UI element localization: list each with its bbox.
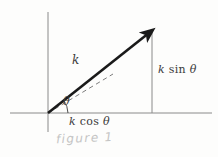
horizontal-component-label: k cos θ	[69, 115, 110, 128]
dashed-reference-line	[48, 74, 113, 113]
vertical-component-angle-symbol: θ	[190, 63, 197, 76]
vertical-component-function: sin	[169, 63, 186, 76]
angle-symbol-text: θ	[63, 95, 70, 108]
figure-caption: figure 1	[56, 130, 114, 147]
vector-magnitude-label: k	[72, 53, 80, 67]
vertical-component-variable: k	[158, 63, 165, 76]
figure-container: k k sin θ k cos θ θ figure 1	[0, 0, 218, 157]
vector-magnitude-text: k	[72, 53, 80, 67]
horizontal-component-variable: k	[69, 115, 76, 128]
horizontal-component-angle-symbol: θ	[103, 115, 110, 128]
horizontal-component-function: cos	[80, 115, 99, 128]
angle-label: θ	[63, 95, 70, 108]
vertical-component-label: k sin θ	[158, 63, 197, 76]
